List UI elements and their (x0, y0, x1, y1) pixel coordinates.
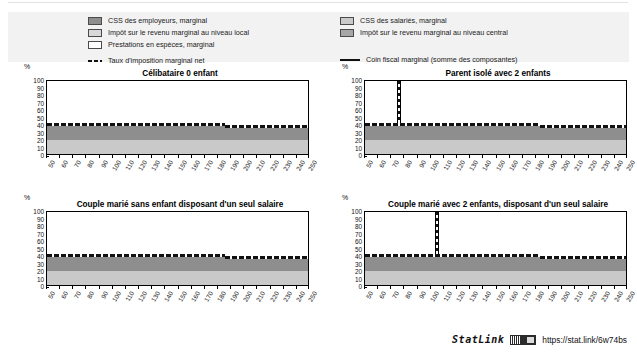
statlink-label: StatLink (452, 334, 504, 345)
x-tick-label: 60 (378, 290, 388, 300)
net-tax-rate-line (540, 256, 627, 259)
x-tick-label: 210 (573, 159, 584, 172)
y-tick-label: 90 (24, 86, 44, 92)
panel-title: Couple marié sans enfant disposant d'un … (46, 200, 314, 209)
x-tick-label: 110 (442, 290, 453, 302)
x-tick-mark (191, 155, 192, 158)
panel-title: Couple marié avec 2 enfants, disposant d… (364, 200, 632, 209)
x-tick-mark (522, 155, 523, 158)
y-tick-label: 80 (24, 224, 44, 230)
y-tick-label: 70 (342, 101, 362, 107)
x-tick-label: 220 (586, 290, 597, 303)
net-tax-rate-line (540, 125, 627, 128)
x-tick-label: 110 (442, 159, 453, 171)
x-tick-mark (308, 155, 309, 158)
x-tick-label: 190 (229, 159, 240, 172)
x-tick-label: 240 (613, 290, 624, 303)
x-tick-label: 180 (216, 290, 227, 303)
x-tick-label: 230 (281, 159, 292, 172)
legend-label: Impôt sur le revenu marginal au niveau c… (360, 27, 508, 38)
central-income-tax-swatch (340, 29, 354, 37)
x-tick-label: 230 (599, 159, 610, 172)
x-tick-label: 110 (124, 159, 135, 171)
x-tick-label: 200 (242, 290, 253, 303)
x-tick-label: 60 (60, 159, 70, 169)
x-tick-label: 160 (507, 290, 518, 303)
x-tick-mark (469, 155, 470, 158)
x-tick-mark (308, 286, 309, 289)
x-tick-mark (535, 286, 536, 289)
x-tick-mark (46, 155, 47, 158)
x-tick-label: 200 (560, 159, 571, 172)
x-tick-label: 240 (613, 159, 624, 172)
x-tick-mark (230, 155, 231, 158)
x-tick-mark (204, 286, 205, 289)
x-tick-label: 190 (547, 290, 558, 303)
x-tick-label: 210 (573, 290, 584, 303)
legend-column-right: CSS des salariés, marginalImpôt sur le r… (340, 15, 630, 66)
x-tick-label: 120 (455, 159, 466, 172)
y-tick-label: 20 (24, 269, 44, 275)
net-tax-rate-line (47, 254, 225, 257)
statlink-url[interactable]: https://stat.link/6w74bs (542, 335, 627, 345)
x-tick-label: 220 (586, 159, 597, 172)
x-tick-label: 90 (417, 290, 427, 300)
y-tick-label: 0 (24, 153, 44, 159)
area-band (47, 140, 308, 155)
legend-column-left: CSS des employeurs, marginalImpôt sur le… (88, 15, 338, 67)
y-tick-label: 100 (24, 209, 44, 215)
y-tick-label: 10 (24, 277, 44, 283)
x-tick-label: 100 (110, 290, 121, 303)
x-tick-mark (270, 155, 271, 158)
x-tick-mark (456, 286, 457, 289)
y-axis-unit: % (342, 194, 348, 201)
panel-parent-isole-2-enfants: %Parent isolé avec 2 enfants100908070605… (318, 63, 636, 195)
y-tick-label: 40 (24, 254, 44, 260)
x-axis-labels: 5060708090100110120130140150160170180190… (46, 159, 309, 189)
y-tick-label: 10 (24, 146, 44, 152)
x-tick-mark (469, 286, 470, 289)
x-tick-label: 210 (255, 290, 266, 303)
x-tick-label: 120 (455, 290, 466, 303)
x-tick-mark (614, 286, 615, 289)
employee-ssc-swatch (340, 17, 354, 25)
x-tick-label: 100 (428, 290, 439, 303)
x-tick-mark (403, 155, 404, 158)
x-tick-mark (626, 286, 627, 289)
x-tick-label: 230 (599, 290, 610, 303)
spike-dashed-fill (398, 81, 400, 124)
x-tick-label: 100 (428, 159, 439, 172)
x-tick-mark (138, 286, 139, 289)
y-axis-unit: % (24, 63, 30, 70)
x-tick-label: 80 (86, 290, 96, 300)
x-tick-mark (535, 155, 536, 158)
x-tick-label: 150 (176, 159, 187, 172)
chart-legend: CSS des employeurs, marginalImpôt sur le… (8, 12, 629, 62)
x-tick-label: 150 (494, 159, 505, 172)
y-tick-label: 60 (342, 239, 362, 245)
x-tick-mark (230, 286, 231, 289)
x-tick-mark (614, 155, 615, 158)
y-tick-label: 20 (342, 269, 362, 275)
y-tick-label: 100 (342, 209, 362, 215)
x-tick-label: 80 (404, 159, 414, 169)
area-band (365, 271, 626, 286)
x-tick-mark (548, 155, 549, 158)
x-tick-label: 240 (295, 290, 306, 303)
net-tax-rate-line (225, 125, 309, 128)
x-tick-label: 180 (534, 290, 545, 303)
y-tick-label: 50 (24, 116, 44, 122)
y-tick-label: 70 (342, 232, 362, 238)
y-tick-label: 80 (24, 93, 44, 99)
y-tick-label: 50 (24, 247, 44, 253)
chart-footer: StatLink https://stat.link/6w74bs (0, 332, 637, 354)
x-tick-mark (125, 286, 126, 289)
x-tick-mark (178, 286, 179, 289)
x-tick-mark (178, 155, 179, 158)
x-tick-mark (417, 286, 418, 289)
y-tick-label: 70 (24, 101, 44, 107)
x-tick-mark (364, 286, 365, 289)
statlink[interactable]: StatLink https://stat.link/6w74bs (452, 334, 627, 345)
x-tick-mark (574, 286, 575, 289)
x-tick-mark (59, 155, 60, 158)
